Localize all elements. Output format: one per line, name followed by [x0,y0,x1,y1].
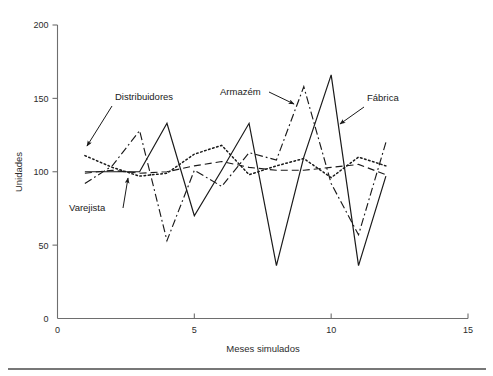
x-tick-label: 5 [192,325,197,335]
y-axis: 050100150200 Unidades [13,20,58,324]
y-axis-title: Unidades [13,152,24,192]
x-tick-label: 10 [326,325,336,335]
y-tick-label: 200 [33,20,48,30]
annotation-label-armazm: Armazém [220,86,261,97]
y-tick-label: 0 [43,314,48,324]
y-tick-label: 100 [33,167,48,177]
series-line-varejista [85,145,386,177]
annotation-arrow [87,106,112,146]
y-axis-ticks: 050100150200 [33,20,57,324]
data-series-group [85,75,386,266]
y-tick-label: 150 [33,94,48,104]
annotation-label-varejista: Varejista [69,202,106,213]
annotation-label-distribuidores: Distribuidores [115,91,173,102]
x-axis: 051015 Meses simulados [55,314,473,355]
annotation-arrow [269,92,294,104]
annotation-arrow [123,178,128,208]
x-axis-title: Meses simulados [226,343,300,354]
line-chart: 050100150200 Unidades 051015 Meses simul… [0,0,493,376]
annotation-arrow [340,107,364,124]
x-tick-label: 0 [55,325,60,335]
y-tick-label: 50 [38,241,48,251]
figure-container: 050100150200 Unidades 051015 Meses simul… [0,0,493,376]
series-line-armazm [85,87,386,241]
annotation-label-fbrica: Fábrica [367,92,399,103]
x-tick-label: 15 [463,325,473,335]
x-axis-ticks: 051015 [55,314,473,335]
